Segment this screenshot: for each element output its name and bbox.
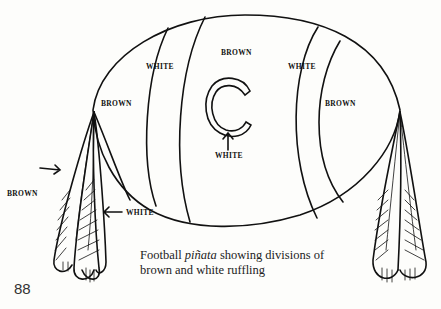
caption-prefix: Football (140, 248, 185, 262)
label-white-c: WHITE (215, 151, 243, 160)
c-emblem (206, 78, 251, 136)
label-brown-tassel: BROWN (7, 189, 38, 198)
football-outline (93, 15, 400, 226)
stripe-line (319, 41, 343, 202)
stripe-line (180, 17, 205, 222)
arrow-right-icon (40, 165, 60, 174)
label-white-left: WHITE (146, 62, 174, 71)
stripe-line (296, 27, 318, 218)
arrow-left-icon (104, 207, 122, 217)
stripe-line (147, 28, 168, 206)
right-tassel (373, 112, 426, 278)
label-brown-left: BROWN (101, 99, 132, 108)
page-number: 88 (14, 280, 31, 297)
figure-caption: Football piñata showing divisions of bro… (140, 248, 340, 278)
label-brown-right: BROWN (325, 99, 356, 108)
caption-italic: piñata (185, 248, 217, 262)
label-brown-top: BROWN (221, 48, 252, 57)
label-white-tassel: WHITE (126, 208, 154, 217)
label-white-right: WHITE (288, 62, 316, 71)
